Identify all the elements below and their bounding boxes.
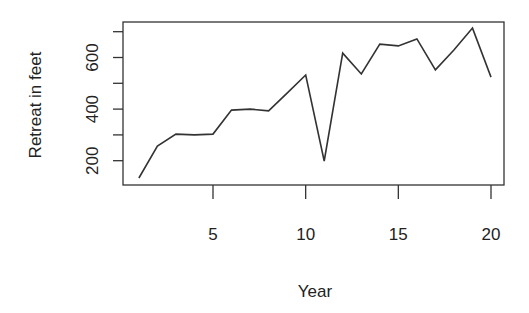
y-tick-label: 200 — [83, 147, 102, 175]
y-axis: 200400600 — [83, 32, 123, 175]
x-tick-label: 15 — [389, 225, 408, 244]
plot-area-frame — [123, 22, 504, 185]
x-tick-label: 10 — [296, 225, 315, 244]
line-chart: 200400600 5101520 Year Retreat in feet — [0, 0, 529, 313]
x-tick-label: 5 — [208, 225, 217, 244]
y-tick-label: 400 — [83, 95, 102, 123]
x-axis: 5101520 — [208, 185, 500, 244]
y-tick-label: 600 — [83, 43, 102, 71]
data-line — [139, 28, 491, 178]
y-axis-title: Retreat in feet — [26, 51, 45, 158]
x-axis-title: Year — [298, 282, 333, 301]
x-tick-label: 20 — [482, 225, 501, 244]
